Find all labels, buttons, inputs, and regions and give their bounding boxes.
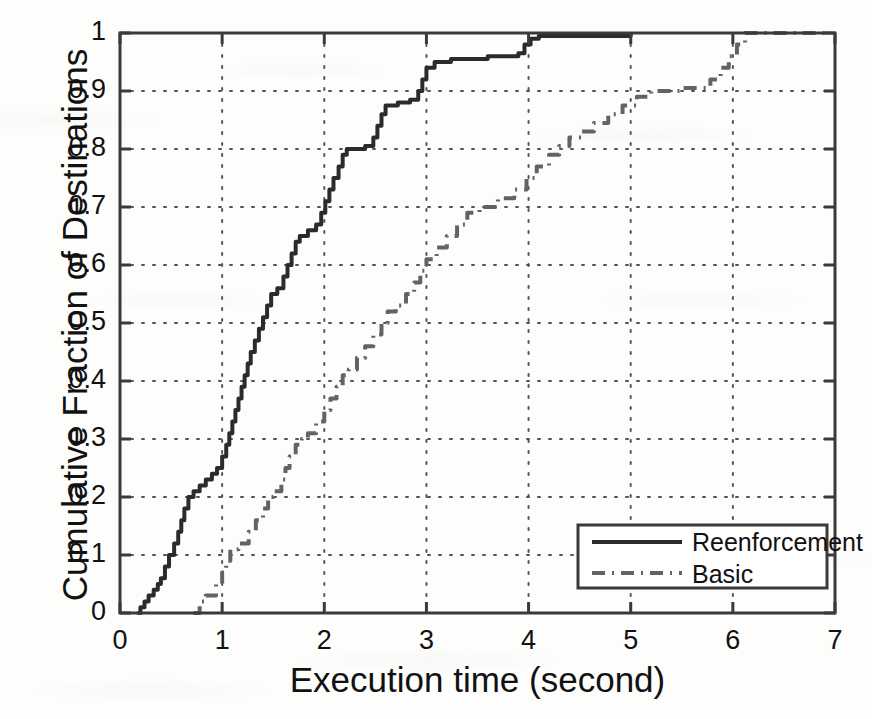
x-tick-label: 2 [294, 625, 354, 656]
x-tick-label: 5 [601, 625, 661, 656]
x-tick-label: 0 [90, 625, 150, 656]
x-axis-title: Execution time (second) [120, 660, 835, 700]
y-axis-title: Cumulative Fraction of Destinations [55, 35, 95, 615]
x-tick-label: 1 [192, 625, 252, 656]
legend-label-reenforcement: Reenforcement [692, 528, 863, 557]
x-tick-label: 4 [499, 625, 559, 656]
x-tick-label: 6 [703, 625, 763, 656]
chart-figure: 00.10.20.30.40.50.60.70.80.91 01234567 C… [0, 0, 872, 719]
x-tick-label: 7 [805, 625, 865, 656]
cdf-plot [0, 0, 872, 719]
x-tick-label: 3 [396, 625, 456, 656]
legend-label-basic: Basic [692, 560, 753, 589]
